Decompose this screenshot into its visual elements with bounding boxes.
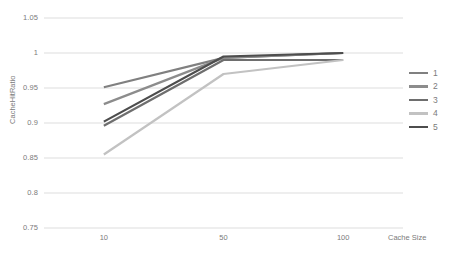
legend-item-label: 4 (433, 109, 438, 118)
x-tick-label: 50 (204, 234, 244, 242)
y-tick-label: 0.8 (8, 189, 38, 197)
y-tick-label: 0.85 (8, 154, 38, 162)
gridlines-group (44, 18, 403, 228)
legend-item-label: 1 (433, 69, 438, 78)
legend-swatch-icon (409, 126, 428, 129)
legend-item-4[interactable]: 4 (409, 107, 451, 121)
legend-item-label: 2 (433, 82, 438, 91)
x-tick-label: 10 (84, 234, 124, 242)
series-line-3 (104, 60, 343, 126)
legend-item-2[interactable]: 2 (409, 80, 451, 94)
legend-item-label: 5 (433, 123, 438, 132)
x-tick-label: 100 (323, 234, 363, 242)
legend-item-5[interactable]: 5 (409, 120, 451, 134)
plot-area (0, 0, 451, 256)
legend-swatch-icon (409, 99, 428, 102)
y-tick-label: 0.75 (8, 224, 38, 232)
y-tick-label: 1 (8, 49, 38, 57)
x-axis-title: Cache Size (388, 234, 426, 242)
legend-item-label: 3 (433, 96, 438, 105)
chart-legend: 12345 (409, 66, 451, 134)
cache-hit-ratio-line-chart: 1.0510.950.90.850.80.75 1050100 CacheHit… (0, 0, 451, 256)
y-axis-title: CacheHitRatio (9, 65, 17, 135)
legend-swatch-icon (409, 72, 428, 75)
legend-item-1[interactable]: 1 (409, 66, 451, 80)
legend-swatch-icon (409, 112, 428, 115)
series-lines-group (104, 53, 343, 155)
y-tick-label: 1.05 (8, 14, 38, 22)
legend-item-3[interactable]: 3 (409, 93, 451, 107)
legend-swatch-icon (409, 85, 428, 88)
